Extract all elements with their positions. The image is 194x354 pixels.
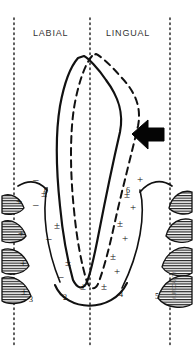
number-marker-4: 4 [119, 290, 123, 299]
tick-mark-labial-3: – [33, 199, 39, 210]
tick-mark-far-left-4: ± [21, 286, 27, 297]
right-scallop-1 [169, 191, 192, 214]
artist-credit: M. MCCARTY [172, 272, 177, 300]
tick-mark-labial-2: ± [41, 188, 47, 199]
tick-mark-lingual-4: ± [117, 218, 123, 229]
tick-mark-lingual-8: ± [101, 281, 107, 292]
tick-mark-labial-1: – [33, 174, 39, 185]
tick-mark-labial-6: ± [65, 257, 71, 268]
tick-mark-labial-7: – [58, 271, 64, 282]
tick-mark-lingual-7: + [114, 266, 120, 277]
tick-mark-labial-8: ± [80, 281, 86, 292]
tick-mark-lingual-3: + [130, 202, 136, 213]
tick-mark-lingual-2: ± [124, 189, 130, 200]
number-marker-2: 2 [63, 293, 67, 302]
tick-mark-labial-5: – [46, 233, 52, 244]
label-labial: LABIAL [33, 28, 68, 38]
tick-mark-far-left-3: + [20, 258, 26, 269]
number-marker-5: 5 [155, 292, 159, 301]
tick-mark-far-left-1: + [16, 196, 22, 207]
number-marker-3: 3 [29, 295, 33, 304]
tick-mark-lingual-5: + [122, 233, 128, 244]
right-scallop-3 [162, 248, 192, 276]
force-arrow-icon [132, 120, 164, 149]
tooth-outline-dashed [71, 54, 139, 288]
label-lingual: LINGUAL [106, 28, 150, 38]
tick-mark-lingual-6: ± [110, 251, 116, 262]
tooth-eruption-diagram: LABIAL LINGUAL 6 6 2 4 3 5 – ± – ± – ± –… [0, 0, 194, 354]
right-bone-curve [140, 182, 172, 192]
tick-mark-lingual-1: + [137, 174, 143, 185]
tick-mark-labial-4: ± [54, 220, 60, 231]
tick-mark-far-left-2: + [18, 228, 24, 239]
